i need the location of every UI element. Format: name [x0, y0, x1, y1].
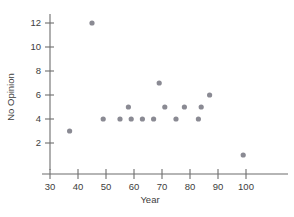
x-axis-title: Year	[140, 194, 159, 205]
data-point	[129, 116, 134, 121]
y-tick-label: 6	[36, 89, 41, 100]
data-point	[162, 104, 167, 109]
data-point	[151, 116, 156, 121]
data-point-series	[67, 20, 246, 157]
x-tick-label: 70	[157, 181, 168, 192]
y-axis-title: No Opinion	[5, 73, 16, 121]
y-tick-label: 8	[36, 65, 41, 76]
x-tick-label: 60	[129, 181, 140, 192]
data-point	[207, 92, 212, 97]
y-tick-label: 4	[36, 113, 41, 124]
x-tick-label: 80	[185, 181, 196, 192]
data-point	[117, 116, 122, 121]
y-tick-label: 10	[30, 41, 41, 52]
data-point	[101, 116, 106, 121]
y-axis: 24681012 No Opinion	[5, 14, 54, 170]
y-tick-label: 2	[36, 137, 41, 148]
x-tick-label: 100	[238, 181, 254, 192]
data-point	[67, 128, 72, 133]
data-point	[182, 104, 187, 109]
data-point	[241, 152, 246, 157]
x-axis: 30405060708090100 Year	[42, 169, 288, 205]
x-axis-tick-labels: 30405060708090100	[45, 181, 254, 192]
data-point	[140, 116, 145, 121]
x-tick-label: 40	[73, 181, 84, 192]
data-point	[126, 104, 131, 109]
y-tick-label: 12	[30, 17, 41, 28]
x-tick-label: 90	[213, 181, 224, 192]
x-tick-label: 30	[45, 181, 56, 192]
data-point	[196, 116, 201, 121]
scatter-plot-figure: 24681012 No Opinion 30405060708090100 Ye…	[0, 0, 294, 217]
y-axis-tick-labels: 24681012	[30, 17, 41, 148]
data-point	[157, 80, 162, 85]
x-tick-label: 50	[101, 181, 112, 192]
data-point	[173, 116, 178, 121]
data-point	[89, 20, 94, 25]
chart-canvas: 24681012 No Opinion 30405060708090100 Ye…	[0, 0, 294, 217]
data-point	[199, 104, 204, 109]
